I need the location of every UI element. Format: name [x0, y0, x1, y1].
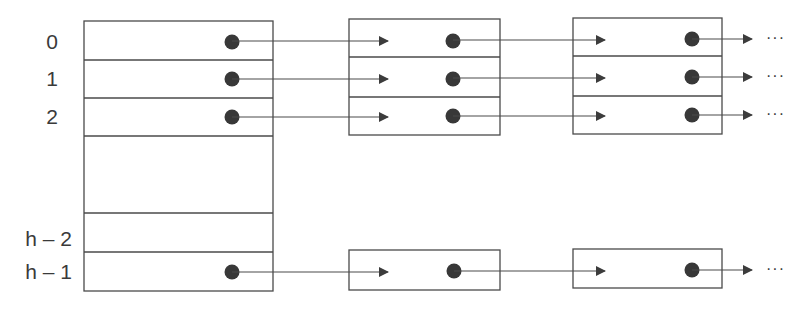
row-label-1: 1 — [0, 67, 58, 91]
continuation-ellipsis-row-1: ··· — [766, 68, 785, 84]
bucket-array — [84, 21, 273, 291]
continuation-ellipsis-row-2: ··· — [766, 106, 785, 122]
chain-node-column-1 — [349, 19, 500, 290]
continuation-ellipsis-row-0: ··· — [766, 30, 785, 46]
array-pointer-dots — [225, 35, 240, 280]
row-label-h-minus-2: h – 2 — [2, 227, 72, 251]
row-label-h-minus-1: h – 1 — [2, 260, 72, 284]
row-label-2: 2 — [0, 105, 58, 129]
pointer-arrows-level-2 — [453, 40, 605, 271]
node-pointer-dots-level-1 — [446, 34, 462, 279]
continuation-ellipsis-row-h-minus-1: ··· — [766, 261, 785, 277]
node-pointer-dots-level-2 — [685, 32, 700, 278]
row-label-0: 0 — [0, 30, 58, 54]
pointer-arrows-level-1 — [232, 41, 388, 272]
chain-node-column-2 — [573, 18, 722, 288]
hash-table-diagram — [0, 0, 800, 316]
